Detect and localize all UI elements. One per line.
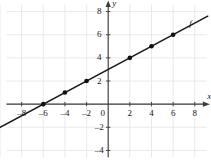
x-tick-label: –8: [17, 109, 26, 118]
y-tick-label: 2: [97, 77, 102, 86]
y-tick-label: 8: [97, 7, 102, 16]
grid-lines: [0, 5, 207, 158]
x-tick-label: –2: [82, 109, 91, 118]
data-point-marker: [41, 102, 46, 107]
y-axis-label: y: [112, 0, 116, 8]
y-tick-label: 4: [97, 53, 102, 62]
y-tick-label: –4: [95, 146, 104, 155]
coordinate-plane-svg: [0, 0, 211, 162]
x-tick-label: 6: [171, 109, 176, 118]
y-tick-label: 6: [97, 30, 102, 39]
x-tick-label: 4: [149, 109, 154, 118]
x-tick-label-origin: 0: [100, 109, 105, 118]
x-axis-arrow: [203, 102, 210, 107]
x-axis-label: x: [207, 92, 211, 101]
x-tick-label: 2: [128, 109, 133, 118]
data-point-marker: [63, 90, 68, 95]
data-point-marker: [171, 32, 176, 37]
y-axis-arrow: [106, 1, 111, 7]
x-tick-label: –6: [39, 109, 48, 118]
data-point-marker: [149, 44, 154, 49]
data-point-marker: [128, 56, 133, 61]
x-tick-label: 8: [193, 109, 198, 118]
graph-figure: –8–6–4–202468–4–22468xyf: [0, 0, 211, 162]
axes: [6, 1, 209, 158]
x-tick-label: –4: [60, 109, 69, 118]
data-point-marker: [84, 79, 89, 84]
y-tick-label: –2: [95, 123, 104, 132]
function-label-f: f: [189, 19, 192, 28]
